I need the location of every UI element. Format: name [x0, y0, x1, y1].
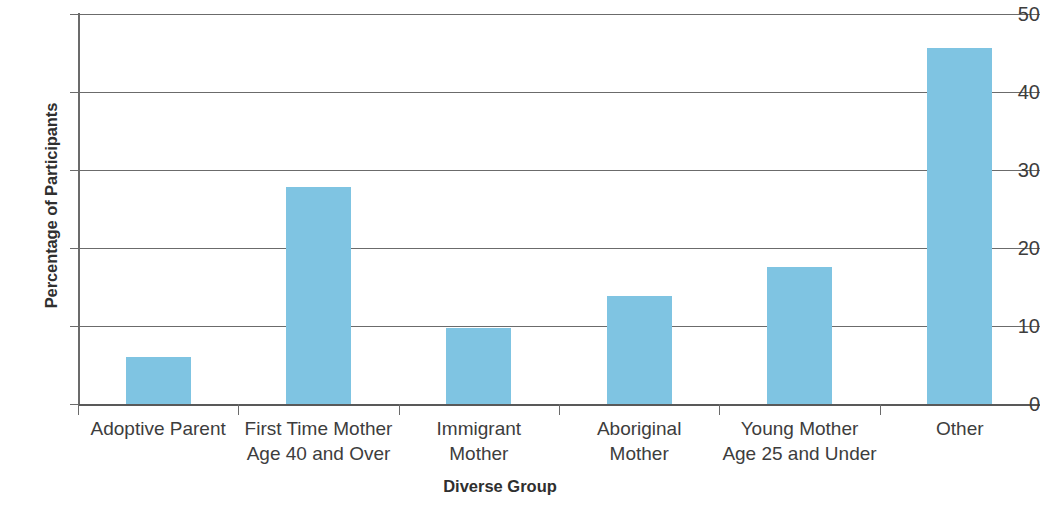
gridline: [78, 170, 1040, 171]
bar[interactable]: [286, 187, 351, 404]
gridline: [78, 326, 1040, 327]
bar[interactable]: [446, 328, 511, 404]
y-axis-tick-label: 50: [982, 3, 1040, 26]
bar[interactable]: [927, 48, 992, 404]
x-axis-category-label: Young Mother Age 25 and Under: [719, 416, 879, 466]
bar[interactable]: [126, 357, 191, 404]
x-axis-title: Diverse Group: [0, 477, 1000, 496]
gridline: [78, 248, 1040, 249]
plot-area: [78, 14, 1040, 404]
x-axis-origin-tick: [78, 404, 79, 415]
bar[interactable]: [607, 296, 672, 404]
y-axis-tick: [70, 326, 79, 327]
y-axis-title: Percentage of Participants: [42, 51, 61, 361]
x-axis-tick: [238, 404, 239, 415]
x-axis-tick: [880, 404, 881, 415]
x-axis-tick: [559, 404, 560, 415]
x-axis-category-label: Aboriginal Mother: [559, 416, 719, 466]
x-axis-category-label: Adoptive Parent: [78, 416, 238, 441]
bar-chart: Percentage of Participants 01020304050 A…: [0, 0, 1040, 507]
x-axis-tick: [719, 404, 720, 415]
x-axis-tick: [399, 404, 400, 415]
y-axis-tick: [70, 92, 79, 93]
bar[interactable]: [767, 267, 832, 404]
x-axis-category-label: Other: [880, 416, 1040, 441]
x-axis-category-label: Immigrant Mother: [399, 416, 559, 466]
y-axis-tick: [70, 14, 79, 15]
y-axis-tick: [70, 170, 79, 171]
y-axis-tick: [70, 248, 79, 249]
gridline: [78, 92, 1040, 93]
x-axis-category-label: First Time Mother Age 40 and Over: [238, 416, 398, 466]
gridline: [78, 14, 1040, 15]
